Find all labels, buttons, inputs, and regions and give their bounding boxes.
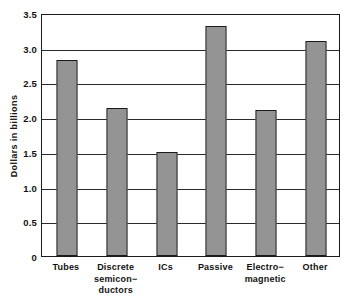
bar-slot: [142, 15, 192, 256]
x-tick-label-line: ductors: [77, 285, 155, 297]
y-tick-label: 3.0: [11, 43, 37, 54]
y-tick-label: 3.5: [11, 9, 37, 20]
x-tick-label-line: Other: [276, 262, 354, 274]
y-tick-label: 1.5: [11, 147, 37, 158]
y-tick-label: 0: [11, 252, 37, 263]
y-tick-label: 2.0: [11, 113, 37, 124]
bar-chart-figure: Dollars in billions 3.5 3.0 2.5 2.0 1.5 …: [0, 0, 355, 299]
plot-area: [41, 14, 340, 257]
bar-slot: [241, 15, 291, 256]
bar-tubes: [56, 60, 77, 256]
y-tick-label: 2.5: [11, 78, 37, 89]
x-tick-label-line: magnetic: [226, 274, 304, 286]
bar-electromagnetic: [256, 110, 277, 256]
y-tick-label: 0.5: [11, 217, 37, 228]
bar-slot: [291, 15, 340, 256]
x-axis-tick-labels: Tubes Discretesemicon−ductors ICs Passiv…: [41, 262, 340, 299]
bar-passive: [206, 26, 227, 256]
bar-ics: [156, 152, 177, 256]
y-tick-label: 1.0: [11, 182, 37, 193]
bar-other: [306, 41, 327, 256]
x-tick-label-other: Other: [276, 262, 354, 274]
x-tick-label-line: semicon−: [77, 274, 155, 286]
bar-slot: [92, 15, 142, 256]
bar-slot: [192, 15, 242, 256]
bar-slot: [42, 15, 92, 256]
y-axis-tick-labels: 3.5 3.0 2.5 2.0 1.5 1.0 0.5 0: [7, 0, 37, 299]
bar-discrete-semiconductors: [106, 108, 127, 256]
bar-series: [42, 15, 339, 256]
